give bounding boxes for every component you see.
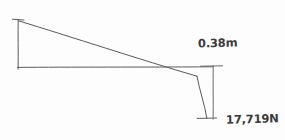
force-diagram-canvas: 0.38m 17,719N [0, 0, 285, 140]
baseline-axis [18, 67, 214, 68]
sloping-diagram-line [19, 21, 197, 76]
force-label: 17,719N [226, 113, 279, 126]
depth-label: 0.38m [198, 37, 238, 50]
vertical-drop-line [197, 76, 207, 118]
